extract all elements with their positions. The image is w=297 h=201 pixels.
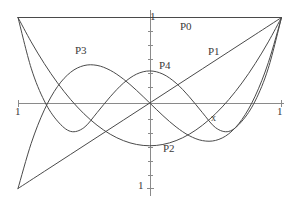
axes-group [18,10,284,196]
plot-canvas [0,0,297,201]
curve-p4 [18,18,282,132]
x-axis-right-label: 1 [277,106,283,117]
curve-label-p2: P2 [163,143,175,154]
curve-label-p0: P0 [180,21,192,32]
y-axis-top-label: 1 [150,11,156,22]
legendre-polynomial-plot: 1 1 1 1 P0 P1 P2 P3 P4 x [0,0,297,201]
curve-label-p1: P1 [208,46,220,57]
x-variable-label: x [211,113,216,123]
curve-label-p3: P3 [75,45,87,56]
curve-p2 [18,18,282,146]
curve-label-p4: P4 [159,60,171,71]
y-axis-bottom-label: 1 [138,180,144,191]
x-axis-left-label: 1 [15,106,21,117]
